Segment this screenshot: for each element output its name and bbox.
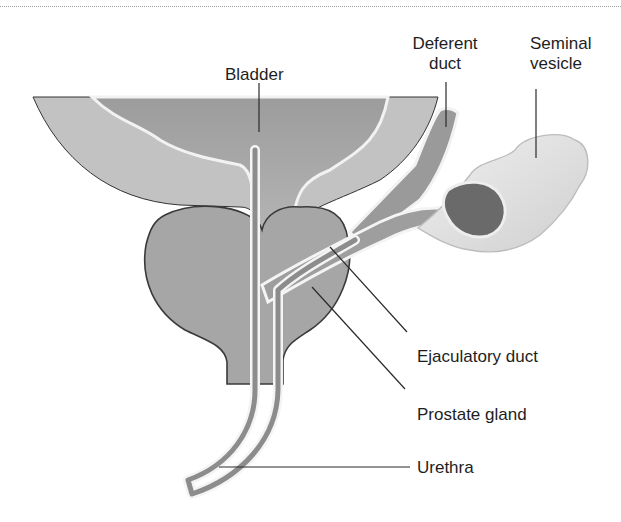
prostate-gland-leader-line (312, 287, 405, 389)
label-seminal-vesicle-line2: vesicle (530, 54, 591, 74)
label-urethra: Urethra (417, 458, 474, 478)
anatomy-illustration (0, 0, 621, 522)
label-deferent-duct-line1: Deferent (405, 34, 485, 54)
label-bladder: Bladder (225, 65, 284, 85)
label-deferent-duct-line2: duct (405, 54, 485, 74)
label-ejaculatory-duct: Ejaculatory duct (417, 347, 538, 367)
label-seminal-vesicle-line1: Seminal (530, 34, 591, 54)
label-seminal-vesicle: Seminal vesicle (530, 34, 591, 74)
label-prostate-gland: Prostate gland (417, 405, 527, 425)
label-deferent-duct: Deferent duct (405, 34, 485, 74)
